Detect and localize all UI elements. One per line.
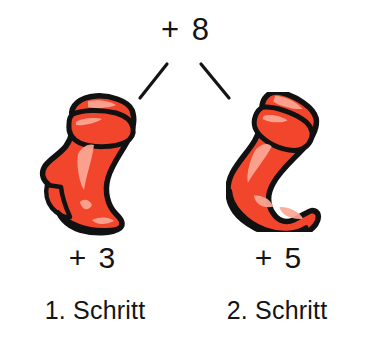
total-label: + 8 bbox=[0, 14, 372, 45]
caption-step-2: 2. Schritt bbox=[184, 298, 370, 323]
boot-icon-step-1 bbox=[36, 84, 148, 236]
addend-step-2: + 5 bbox=[186, 243, 372, 273]
boot-icon-step-2 bbox=[226, 92, 360, 232]
worksheet-figure: + 8 bbox=[0, 0, 372, 352]
caption-step-1: 1. Schritt bbox=[2, 298, 188, 323]
addend-step-1: + 3 bbox=[0, 243, 186, 273]
right-branch-line bbox=[201, 64, 229, 98]
